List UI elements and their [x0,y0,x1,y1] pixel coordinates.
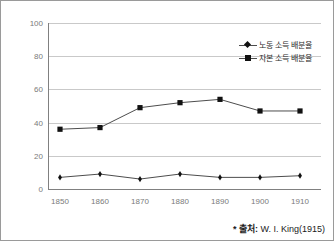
series-capital-income [57,97,302,132]
data-series-layer [1,1,334,241]
source-label: 출처: [239,224,258,234]
chart-legend: 노동 소득 배분율 자본 소득 배분율 [239,39,325,65]
series-labor-income [58,171,302,182]
legend-item-capital[interactable]: 자본 소득 배분율 [239,52,325,65]
source-note: * 출처: W. I. King(1915) [233,222,325,235]
legend-label-labor: 노동 소득 배분율 [257,41,312,51]
legend-marker-square-icon [239,52,257,65]
chart-screenshot: 100 80 60 40 20 0 1850 1860 1870 1880 18… [0,0,334,241]
source-star: * [233,224,237,234]
legend-item-labor[interactable]: 노동 소득 배분율 [239,39,325,52]
legend-marker-diamond-icon [239,39,257,52]
source-text: W. I. King(1915) [260,224,325,234]
legend-label-capital: 자본 소득 배분율 [257,54,312,64]
